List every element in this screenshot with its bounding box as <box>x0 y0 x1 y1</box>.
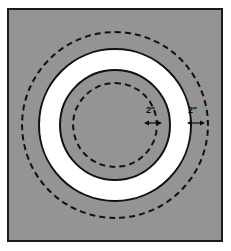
diagram-canvas: 2" 2" <box>0 0 231 251</box>
outer-offset-dimension-arrow <box>186 117 208 129</box>
inner-offset-dimension-label: 2" <box>146 106 155 115</box>
outer-offset-dimension-label: 2" <box>188 106 197 115</box>
inner-offset-dimension-arrow <box>143 117 165 129</box>
